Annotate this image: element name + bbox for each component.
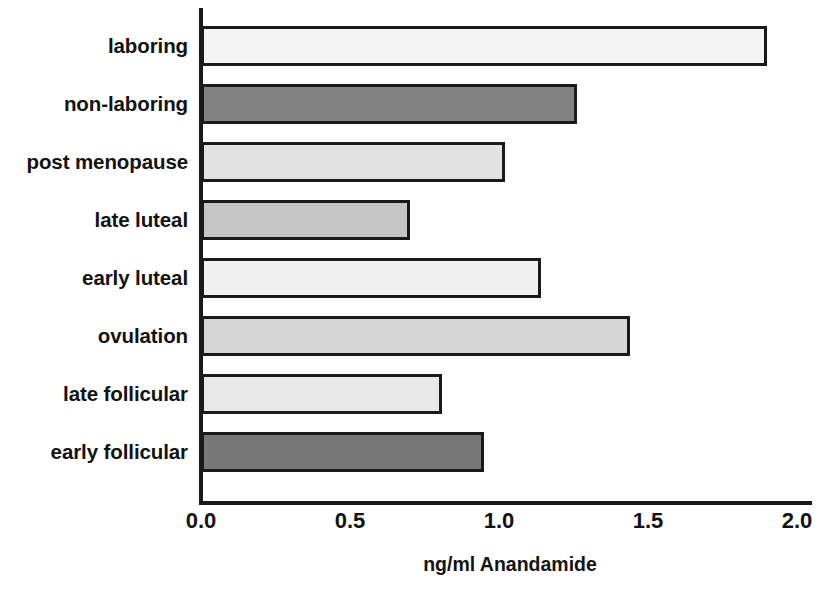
bar-row: post menopause — [0, 142, 820, 182]
bar-category-label: early follicular — [51, 440, 188, 464]
bar-row: late follicular — [0, 374, 820, 414]
bar-row: non-laboring — [0, 84, 820, 124]
bar — [201, 26, 767, 66]
x-axis-tick-label: 0.5 — [335, 508, 366, 534]
x-axis-tick-label: 1.5 — [633, 508, 664, 534]
x-axis-title: ng/ml Anandamide — [0, 553, 820, 576]
bar-row: early follicular — [0, 432, 820, 472]
x-axis-title-text: ng/ml Anandamide — [423, 553, 597, 575]
bar-chart-figure: laboringnon-laboringpost menopauselate l… — [0, 0, 820, 593]
x-axis-tick-label: 0.0 — [186, 508, 217, 534]
bar — [201, 84, 577, 124]
bar-row: ovulation — [0, 316, 820, 356]
x-axis-tick-label: 1.0 — [484, 508, 515, 534]
bar-row: early luteal — [0, 258, 820, 298]
bar-category-label: ovulation — [98, 324, 188, 348]
bar-category-label: post menopause — [27, 150, 189, 174]
bar — [201, 374, 442, 414]
bar-row: late luteal — [0, 200, 820, 240]
bar-category-label: non-laboring — [64, 92, 188, 116]
bar — [201, 258, 541, 298]
bar — [201, 316, 630, 356]
bar-row: laboring — [0, 26, 820, 66]
bar-series: laboringnon-laboringpost menopauselate l… — [0, 0, 820, 510]
bar-category-label: laboring — [108, 34, 188, 58]
x-axis-tick-label: 2.0 — [782, 508, 813, 534]
bar — [201, 200, 410, 240]
bar — [201, 432, 484, 472]
x-axis-tick-labels: 0.00.51.01.52.0 — [0, 508, 820, 540]
bar — [201, 142, 505, 182]
bar-category-label: early luteal — [82, 266, 188, 290]
bar-category-label: late follicular — [63, 382, 188, 406]
bar-category-label: late luteal — [95, 208, 188, 232]
